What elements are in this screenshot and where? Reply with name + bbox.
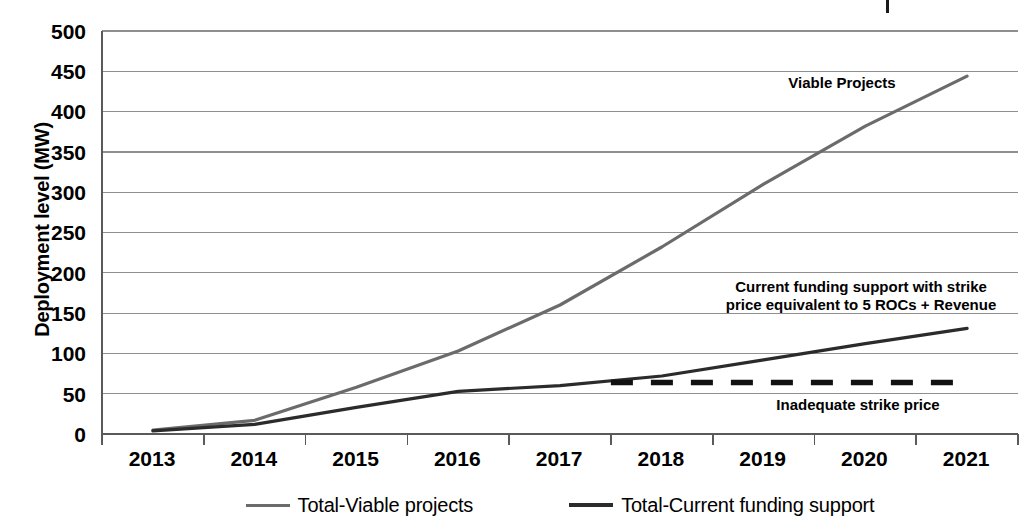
x-tick-label-2019: 2019: [712, 448, 814, 469]
series-current-funding-support-line: [153, 328, 967, 430]
legend-line-swatch-current-funding-support: [569, 503, 613, 507]
legend-item-current-funding-support: Total-Current funding support: [569, 494, 874, 517]
x-tick-label-2016: 2016: [406, 448, 508, 469]
x-tick-label-2021: 2021: [915, 448, 1017, 469]
legend-line-swatch-viable-projects: [246, 504, 290, 507]
x-tick-label-2015: 2015: [305, 448, 407, 469]
x-tick-label-2017: 2017: [508, 448, 610, 469]
legend-item-viable-projects: Total-Viable projects: [246, 494, 474, 517]
x-tick-label-2014: 2014: [203, 448, 305, 469]
legend-label-viable-projects: Total-Viable projects: [298, 494, 474, 517]
x-tick-label-2018: 2018: [610, 448, 712, 469]
x-tick-label-2020: 2020: [814, 448, 916, 469]
annotation-inadequate-strike-price: Inadequate strike price: [718, 396, 998, 414]
x-axis-ticks: [102, 434, 1018, 445]
chart-legend: Total-Viable projects Total-Current fund…: [102, 489, 1018, 521]
deployment-level-line-chart: Deployment level (MW) 500 450 400 350 30…: [0, 0, 1030, 531]
annotation-current-funding-support: Current funding support with strike pric…: [706, 278, 1016, 315]
x-axis-tick-labels: 2013 2014 2015 2016 2017 2018 2019 2020 …: [102, 448, 1018, 478]
legend-label-current-funding-support: Total-Current funding support: [621, 494, 874, 517]
x-tick-label-2013: 2013: [101, 448, 203, 469]
series-viable-projects-line: [153, 76, 967, 430]
annotation-viable-projects: Viable Projects: [752, 74, 932, 92]
